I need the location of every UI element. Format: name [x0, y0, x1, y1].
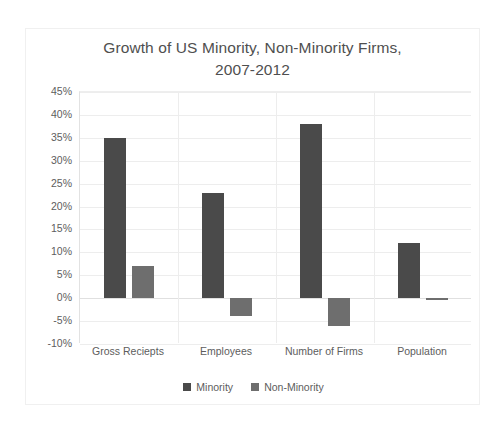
bar-non-minority-number-of-firms: [328, 298, 350, 325]
y-axis-tick-label: -5%: [53, 314, 72, 326]
x-axis-category-label: Number of Firms: [285, 345, 363, 357]
x-axis-category-label: Gross Reciepts: [92, 345, 164, 357]
legend-label: Minority: [196, 381, 233, 393]
legend-item-non-minority[interactable]: Non-Minority: [251, 381, 324, 393]
legend-label: Non-Minority: [264, 381, 324, 393]
bars-layer: [80, 92, 471, 343]
legend-swatch-icon: [251, 383, 259, 391]
y-axis: 45%40%35%30%25%20%15%10%5%0%-5%-10%: [26, 91, 76, 343]
y-axis-tick-label: 0%: [57, 291, 72, 303]
bar-minority-population: [398, 243, 420, 298]
bar-minority-employees: [202, 193, 224, 298]
bar-minority-number-of-firms: [300, 124, 322, 298]
bar-non-minority-employees: [230, 298, 252, 316]
y-axis-tick-label: 5%: [57, 268, 72, 280]
bar-non-minority-gross-reciepts: [132, 266, 154, 298]
y-axis-tick-label: 10%: [51, 245, 72, 257]
x-axis-category-label: Population: [397, 345, 447, 357]
legend-item-minority[interactable]: Minority: [183, 381, 233, 393]
y-axis-tick-label: 45%: [51, 85, 72, 97]
y-axis-tick-label: 40%: [51, 108, 72, 120]
plot-wrapper: 45%40%35%30%25%20%15%10%5%0%-5%-10% Gros…: [26, 29, 481, 406]
bar-non-minority-population: [426, 298, 448, 300]
y-axis-tick-label: 30%: [51, 154, 72, 166]
y-axis-tick-label: 20%: [51, 200, 72, 212]
chart-container: Growth of US Minority, Non-Minority Firm…: [25, 28, 480, 405]
legend-swatch-icon: [183, 383, 191, 391]
x-axis-category-label: Employees: [200, 345, 252, 357]
y-axis-tick-label: -10%: [47, 337, 72, 349]
y-axis-tick-label: 35%: [51, 131, 72, 143]
plot-area: [79, 91, 471, 343]
x-axis: Gross RecieptsEmployeesNumber of FirmsPo…: [79, 345, 471, 367]
y-axis-tick-label: 15%: [51, 222, 72, 234]
y-axis-tick-label: 25%: [51, 177, 72, 189]
bar-minority-gross-reciepts: [104, 138, 126, 298]
chart-legend: MinorityNon-Minority: [26, 381, 481, 393]
